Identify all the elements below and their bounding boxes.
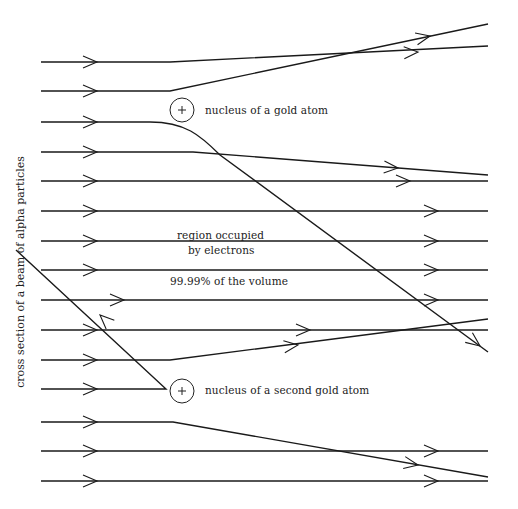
nucleus-2-icon — [170, 379, 194, 403]
arrowhead-icon — [283, 339, 298, 353]
electron-region-label-line1: region occupied — [177, 229, 264, 241]
trajectory-row-1 — [41, 46, 488, 62]
nucleus-1-label: nucleus of a gold atom — [205, 104, 328, 116]
electron-region-label-line2: by electrons — [188, 244, 255, 256]
trajectory-row-4 — [41, 152, 488, 175]
trajectory-row-11 — [41, 319, 488, 360]
nucleus-1-icon — [170, 98, 194, 122]
scattering-diagram — [0, 0, 518, 509]
beam-axis-label: cross section of a beam of alpha particl… — [14, 156, 27, 388]
nucleus-2-label: nucleus of a second gold atom — [205, 384, 369, 396]
arrowhead-icon — [404, 46, 419, 59]
trajectory-row-12 — [16, 250, 166, 389]
volume-percentage-label: 99.99% of the volume — [170, 275, 288, 287]
trajectory-row-13 — [41, 422, 488, 477]
direction-arrows — [83, 30, 484, 487]
